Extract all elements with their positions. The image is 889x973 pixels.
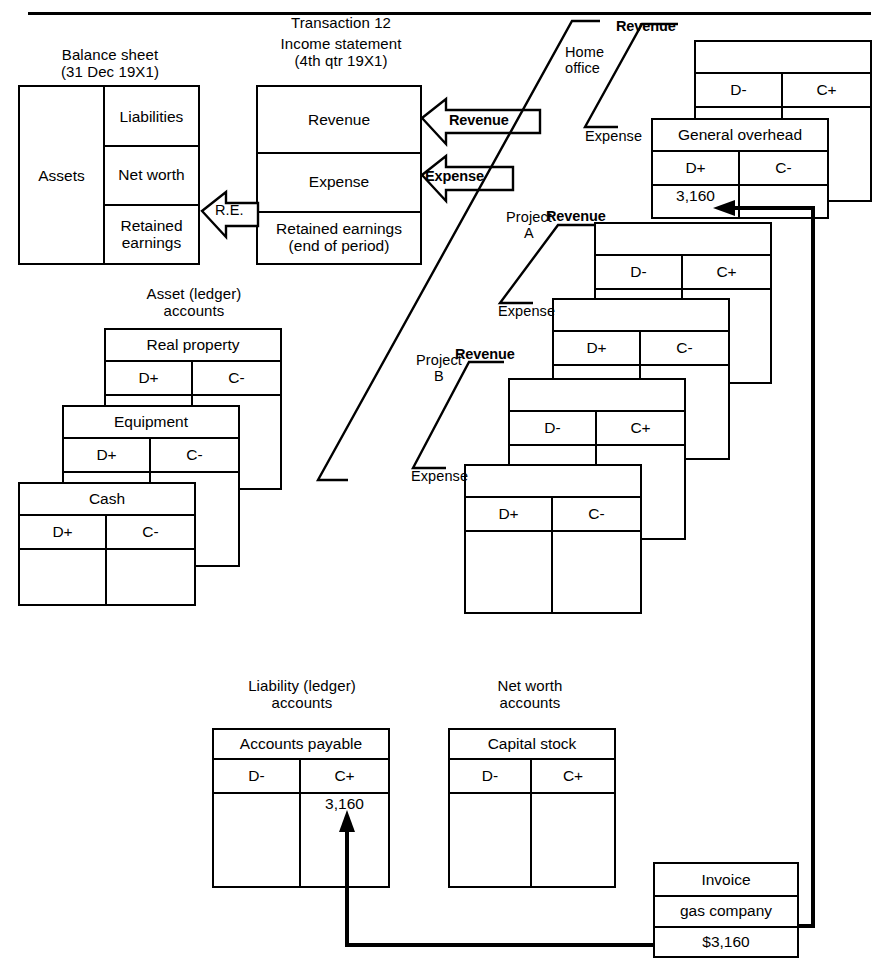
account-debit-header: D+	[466, 498, 553, 530]
account-debit-header: D+	[554, 332, 641, 364]
project-b-expense-label: Expense	[411, 468, 468, 484]
account-debit-header: D-	[510, 412, 597, 444]
account-dc-header: D+ C-	[20, 516, 194, 550]
income-statement-revenue: Revenue	[258, 87, 420, 152]
home-office-expense-account: General overhead D+ C- 3,160	[651, 118, 829, 219]
account-body: 3,160	[653, 186, 827, 217]
account-dc-header: D+ C-	[653, 152, 827, 186]
invoice-box: Invoice gas company $3,160	[653, 862, 799, 958]
account-credit-header: C-	[107, 516, 194, 548]
account-body: 3,160	[214, 794, 388, 886]
diagram-canvas: Transaction 12 Balance sheet (31 Dec 19X…	[0, 0, 889, 973]
account-dc-header: D- C+	[450, 760, 614, 794]
account-debit-value	[214, 794, 301, 886]
liability-account-accounts-payable: Accounts payable D- C+ 3,160	[212, 728, 390, 888]
account-credit-header: C-	[151, 439, 238, 471]
account-debit-header: D-	[696, 74, 783, 106]
income-statement-caption: Income statement (4th qtr 19X1)	[258, 35, 424, 69]
account-dc-header: D+ C-	[106, 362, 280, 396]
account-title	[696, 42, 870, 74]
income-statement-box: Revenue Expense Retained earnings (end o…	[256, 85, 422, 265]
account-dc-header: D+ C-	[466, 498, 640, 532]
account-credit-header: C+	[783, 74, 870, 106]
account-credit-value: 3,160	[301, 794, 388, 886]
balance-sheet-liabilities: Liabilities	[105, 87, 198, 145]
account-credit-header: C+	[683, 256, 770, 288]
invoice-vendor: gas company	[655, 895, 797, 926]
account-debit-header: D-	[596, 256, 683, 288]
account-debit-header: D-	[214, 760, 301, 792]
account-title: Accounts payable	[214, 730, 388, 760]
account-debit-value	[20, 550, 107, 604]
invoice-amount: $3,160	[655, 926, 797, 956]
account-credit-value	[740, 186, 827, 217]
account-title: Capital stock	[450, 730, 614, 760]
balance-sheet-net-worth: Net worth	[105, 145, 198, 204]
account-dc-header: D- C+	[214, 760, 388, 794]
account-debit-header: D-	[450, 760, 532, 792]
account-body	[466, 532, 640, 612]
net-worth-account-capital-stock: Capital stock D- C+	[448, 728, 616, 888]
account-dc-header: D- C+	[596, 256, 770, 290]
account-debit-header: D+	[64, 439, 151, 471]
account-debit-header: D+	[106, 362, 193, 394]
account-body	[450, 794, 614, 886]
project-b-revenue-label: Revenue	[455, 346, 515, 362]
invoice-title: Invoice	[655, 864, 797, 895]
revenue-arrow-label: Revenue	[449, 112, 509, 128]
account-title	[554, 300, 728, 332]
account-credit-header: C-	[740, 152, 827, 184]
account-title	[510, 380, 684, 412]
account-credit-value	[532, 794, 614, 886]
balance-sheet-caption: Balance sheet (31 Dec 19X1)	[20, 46, 200, 80]
account-debit-header: D+	[20, 516, 107, 548]
liability-accounts-caption: Liability (ledger) accounts	[212, 677, 392, 711]
account-title: Equipment	[64, 407, 238, 439]
asset-account-cash: Cash D+ C-	[18, 482, 196, 606]
account-debit-value: 3,160	[653, 186, 740, 217]
account-credit-value	[553, 532, 640, 612]
account-credit-header: C+	[301, 760, 388, 792]
balance-sheet-box: Assets Liabilities Net worth Retained ea…	[18, 85, 200, 265]
account-title: General overhead	[653, 120, 827, 152]
account-title: Real property	[106, 330, 280, 362]
account-debit-value	[466, 532, 553, 612]
account-credit-header: C+	[597, 412, 684, 444]
account-credit-header: C-	[193, 362, 280, 394]
account-dc-header: D+ C-	[64, 439, 238, 473]
balance-sheet-retained-earnings: Retained earnings	[105, 204, 198, 263]
project-b-expense-account: D+ C-	[464, 464, 642, 614]
project-a-revenue-label: Revenue	[546, 208, 606, 224]
account-credit-header: C-	[553, 498, 640, 530]
transaction-title: Transaction 12	[258, 14, 424, 31]
account-dc-header: D+ C-	[554, 332, 728, 366]
page-top-rule	[28, 12, 871, 15]
account-title	[596, 224, 770, 256]
account-dc-header: D- C+	[510, 412, 684, 446]
account-credit-header: C+	[532, 760, 614, 792]
home-office-expense-label: Expense	[585, 128, 642, 144]
income-statement-retained-earnings: Retained earnings (end of period)	[258, 211, 420, 263]
re-arrow-label: R.E.	[215, 202, 244, 218]
account-title: Cash	[20, 484, 194, 516]
account-credit-value	[107, 550, 194, 604]
expense-arrow-label: Expense	[425, 168, 484, 184]
asset-accounts-caption: Asset (ledger) accounts	[98, 285, 290, 319]
home-office-revenue-label: Revenue	[616, 18, 676, 34]
account-title	[466, 466, 640, 498]
account-dc-header: D- C+	[696, 74, 870, 108]
home-office-label: Home office	[565, 44, 625, 76]
income-statement-expense: Expense	[258, 152, 420, 211]
balance-sheet-assets: Assets	[20, 87, 103, 263]
account-credit-header: C-	[641, 332, 728, 364]
account-debit-value	[450, 794, 532, 886]
account-debit-header: D+	[653, 152, 740, 184]
net-worth-accounts-caption: Net worth accounts	[448, 677, 612, 711]
project-a-expense-label: Expense	[498, 303, 555, 319]
account-body	[20, 550, 194, 604]
